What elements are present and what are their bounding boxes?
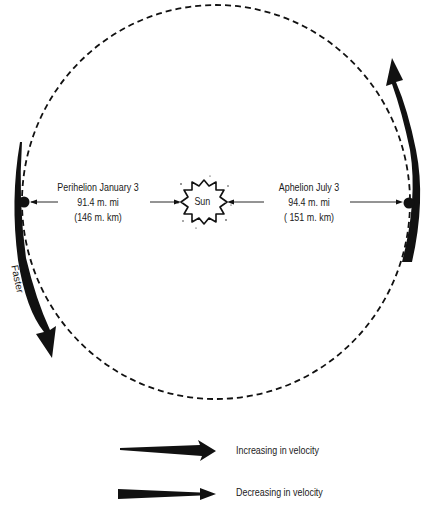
aphelion-title: Aphelion July 3 — [267, 180, 350, 195]
perihelion-distance-km: (146 m. km) — [50, 210, 145, 225]
earth-perihelion-dot — [19, 197, 30, 208]
faster-arrow-icon — [14, 142, 56, 358]
legend-decreasing-arrow-icon — [118, 488, 216, 500]
slower-arrow-icon — [386, 58, 420, 262]
legend-decreasing-label: Decreasing in velocity — [236, 486, 323, 498]
legend-increasing-label: Increasing in velocity — [236, 444, 319, 456]
earth-aphelion-dot — [404, 198, 415, 209]
perihelion-label: Perihelion January 3 91.4 m. mi (146 m. … — [50, 180, 145, 225]
orbit-diagram — [0, 0, 428, 508]
aphelion-distance-km: ( 151 m. km) — [267, 210, 350, 225]
perihelion-distance-mi: 91.4 m. mi — [50, 195, 145, 210]
sun-label: Sun — [194, 195, 210, 207]
aphelion-label: Aphelion July 3 94.4 m. mi ( 151 m. km) — [267, 180, 350, 225]
aphelion-distance-mi: 94.4 m. mi — [267, 195, 350, 210]
legend-increasing-arrow-icon — [120, 440, 216, 461]
perihelion-title: Perihelion January 3 — [50, 180, 145, 195]
